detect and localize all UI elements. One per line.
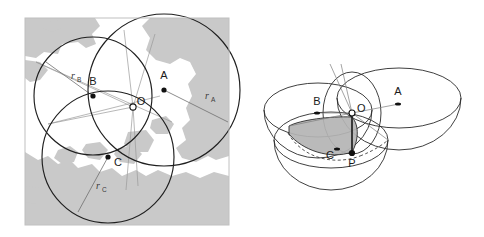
svg-text:r: r [71, 70, 75, 81]
station-dot-A [161, 87, 166, 92]
point-label-P-3d: P [348, 157, 355, 169]
station-label-B-3d: B [313, 95, 320, 107]
spheres-svg: A B C O P [242, 0, 484, 237]
station-dot-C-3d [334, 148, 340, 151]
station-label-B: B [89, 75, 96, 87]
panel-2d-map: A B C O r A r B r C [0, 0, 242, 237]
station-dot-B-3d [314, 112, 320, 115]
map-svg: A B C O r A r B r C [0, 0, 242, 237]
svg-text:r: r [96, 180, 100, 191]
svg-text:r: r [205, 90, 209, 101]
point-marker-P-3d [349, 150, 355, 156]
intersection-marker-O [130, 104, 136, 110]
shaded-intersection-region [289, 117, 357, 155]
station-dot-C [105, 154, 110, 159]
station-label-A: A [160, 69, 168, 81]
station-label-C-3d: C [326, 149, 334, 161]
svg-text:A: A [211, 96, 216, 103]
station-dot-A-3d [395, 103, 401, 106]
intersection-label-O: O [137, 95, 146, 107]
station-label-C: C [114, 156, 122, 168]
svg-text:B: B [77, 76, 81, 83]
point-label-O-3d: O [357, 102, 366, 114]
sphere-A-rim-ellipse [337, 68, 461, 128]
trilateration-figure: A B C O r A r B r C [0, 0, 484, 237]
station-label-A-3d: A [394, 85, 402, 97]
point-marker-O-3d [349, 110, 355, 116]
svg-text:C: C [102, 186, 107, 193]
station-dot-B [90, 93, 95, 98]
panel-3d-spheres: A B C O P [242, 0, 484, 237]
